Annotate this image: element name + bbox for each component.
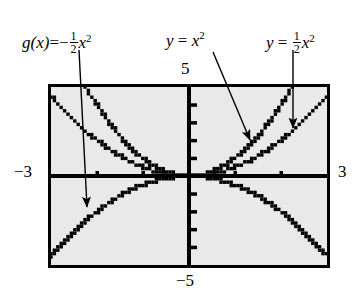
label-left-sign: −: [59, 33, 69, 52]
curve-pixel: [206, 174, 209, 177]
curve-pixel: [298, 225, 301, 228]
curve-pixel: [301, 232, 304, 235]
curve-pixel: [199, 174, 202, 177]
curve-pixel: [281, 99, 284, 102]
curve-pixel: [104, 204, 107, 207]
curve-pixel: [148, 164, 151, 167]
x-axis-tick: [280, 171, 284, 175]
curve-pixel: [51, 252, 53, 255]
curve-pixel: [315, 106, 318, 109]
curve-pixel: [260, 130, 263, 133]
curve-pixel: [213, 167, 216, 170]
curve-pixel: [104, 116, 107, 119]
curve-pixel: [243, 147, 246, 150]
curve-pixel: [270, 119, 273, 122]
curve-pixel: [264, 150, 267, 153]
curve-pixel: [77, 228, 80, 231]
curve-pixel: [240, 153, 243, 156]
label-right-equals: =: [278, 33, 288, 52]
y-axis-tick: [191, 103, 197, 107]
curve-pixel: [100, 204, 103, 207]
curve-pixel: [162, 177, 165, 180]
curve-pixel: [141, 184, 144, 187]
curve-pixel: [73, 232, 76, 235]
curve-pixel: [145, 157, 148, 160]
curve-pixel: [216, 167, 219, 170]
curve-pixel: [315, 242, 318, 245]
curve-pixel: [284, 96, 287, 99]
curve-pixel: [172, 174, 175, 177]
curve-pixel: [145, 167, 148, 170]
curve-pixel: [281, 136, 284, 139]
curve-pixel: [121, 136, 124, 139]
x-axis-tick: [96, 171, 100, 175]
curve-pixel: [291, 218, 294, 221]
curve-pixel: [247, 187, 250, 190]
y-axis-tick: [191, 157, 197, 161]
label-right-denominator: 2: [293, 43, 301, 55]
curve-pixel: [107, 201, 110, 204]
curve-pixel: [94, 99, 97, 102]
curve-pixel: [219, 170, 222, 173]
curve-pixel: [104, 147, 107, 150]
curve-pixel: [308, 113, 311, 116]
curve-pixel: [260, 194, 263, 197]
curve-pixel: [267, 201, 270, 204]
curve-pixel: [114, 150, 117, 153]
curve-pixel: [236, 164, 239, 167]
curve-pixel: [128, 160, 131, 163]
curve-pixel: [298, 228, 301, 231]
calculator-screen: [48, 84, 330, 268]
curve-pixel: [104, 143, 107, 146]
curve-pixel: [301, 228, 304, 231]
curve-pixel: [70, 235, 73, 238]
curve-pixel: [100, 140, 103, 143]
curve-pixel: [311, 242, 314, 245]
curve-pixel: [100, 208, 103, 211]
curve-pixel: [277, 109, 280, 112]
curve-pixel: [304, 235, 307, 238]
curve-pixel: [260, 198, 263, 201]
curve-pixel: [274, 143, 277, 146]
curve-pixel: [56, 102, 59, 105]
curve-pixel: [270, 147, 273, 150]
curve-pixel: [260, 153, 263, 156]
curve-pixel: [128, 143, 131, 146]
curve-pixel: [325, 252, 327, 255]
curve-pixel: [226, 167, 229, 170]
curve-pixel: [141, 167, 144, 170]
curve-pixel: [243, 160, 246, 163]
equation-label-y-equals-half-x-squared: y = 12x2: [266, 30, 315, 55]
curve-pixel: [260, 133, 263, 136]
curve-pixel: [117, 153, 120, 156]
curve-pixel: [134, 153, 137, 156]
curve-pixel: [97, 208, 100, 211]
curve-pixel: [284, 136, 287, 139]
parabola-family-figure: g(x)=−12x2 y = x2 y = 12x2 5 −5 −3 3: [0, 0, 364, 298]
curve-pixel: [151, 164, 154, 167]
curve-pixel: [83, 130, 86, 133]
window-ymax-label: 5: [181, 60, 190, 77]
curve-pixel: [287, 133, 290, 136]
curve-pixel: [83, 218, 86, 221]
curve-pixel: [308, 238, 311, 241]
curve-pixel: [100, 113, 103, 116]
curve-pixel: [128, 147, 131, 150]
curve-pixel: [264, 126, 267, 129]
curve-pixel: [128, 187, 131, 190]
curve-pixel: [162, 167, 165, 170]
curve-pixel: [308, 235, 311, 238]
curve-pixel: [51, 255, 53, 258]
curve-pixel: [73, 119, 76, 122]
label-left-numerator: 1: [70, 30, 78, 43]
curve-pixel: [97, 106, 100, 109]
curve-pixel: [277, 140, 280, 143]
curve-pixel: [247, 143, 250, 146]
curve-pixel: [321, 99, 324, 102]
curve-pixel: [253, 157, 256, 160]
curve-pixel: [165, 174, 168, 177]
curve-pixel: [121, 191, 124, 194]
curve-pixel: [209, 174, 212, 177]
curve-pixel: [70, 116, 73, 119]
curve-pixel: [301, 119, 304, 122]
